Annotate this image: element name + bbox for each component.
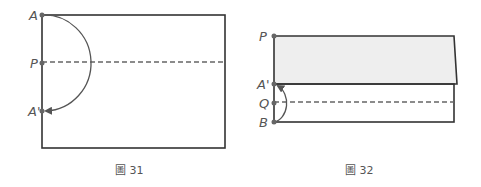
diagram-canvas: A P A' 圖 31 P A' Q B 圖 32 [0, 0, 481, 187]
point-p [272, 34, 277, 39]
figure-32: P A' Q B 圖 32 [256, 29, 457, 177]
point-q [272, 101, 277, 106]
point-a [40, 13, 45, 18]
folded-flap [274, 36, 457, 84]
label-p: P [259, 29, 267, 44]
label-p: P [30, 56, 38, 71]
label-q: Q [259, 96, 269, 111]
label-a-prime: A' [27, 104, 40, 119]
point-a-prime [272, 82, 277, 87]
fold-arc-arrow [42, 15, 91, 111]
caption-31: 圖 31 [115, 164, 144, 177]
label-a-prime: A' [256, 77, 269, 92]
point-p [40, 61, 45, 66]
point-b [272, 120, 277, 125]
label-b: B [259, 115, 268, 130]
label-a: A [28, 8, 38, 23]
paper-rectangle [42, 15, 225, 148]
caption-32: 圖 32 [345, 164, 374, 177]
lower-rectangle [274, 84, 454, 122]
figure-31: A P A' 圖 31 [27, 8, 225, 177]
